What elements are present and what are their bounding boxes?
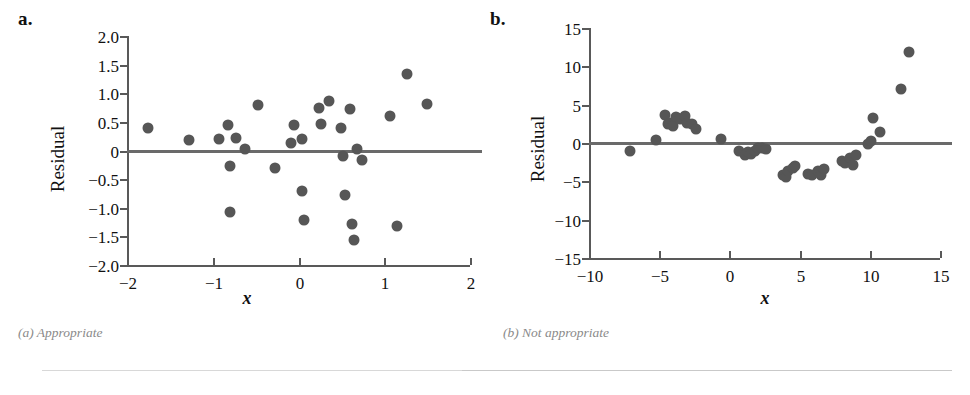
panel-a-x-tick [470,258,472,265]
panel-a-data-point [336,123,347,134]
panel-b-x-tick-label: −5 [630,268,690,285]
panel-b-y-tick [582,220,589,222]
panel-a-y-tick-label: 0.5 [71,115,119,132]
panel-a-y-tick [120,265,127,267]
panel-a: a. Residual 2.01.51.00.50−0.5−1.0−1.5−2.… [0,0,485,340]
panel-b: b. Residual 151050−5−10−15−10−5051015 x … [485,0,970,340]
panel-a-data-point [224,161,235,172]
panel-b-y-tick [582,28,589,30]
panel-a-data-point [223,120,234,131]
panel-a-x-tick [299,258,301,265]
panel-a-x-tick-label: −2 [98,275,158,292]
panel-a-data-point [392,220,403,231]
panel-a-data-point [346,219,357,230]
panel-a-data-point [142,122,153,133]
panel-a-x-axis-line [127,265,470,267]
panel-b-x-tick-label: 15 [911,268,970,285]
panel-a-data-point [323,96,334,107]
panel-a-x-tick-label: 1 [355,275,415,292]
panel-b-y-tick-label: −5 [533,174,581,191]
residual-plots-figure: a. Residual 2.01.51.00.50−0.5−1.0−1.5−2.… [0,0,970,395]
panel-a-data-point [315,119,326,130]
panel-a-x-tick-label: 0 [270,275,330,292]
panel-b-x-tick [659,251,661,258]
panel-a-x-axis-title: x [227,288,267,309]
panel-b-y-tick-label: 15 [533,21,581,38]
panel-a-zero-reference-line [127,150,482,153]
panel-b-data-point [624,145,635,156]
panel-b-data-point [904,46,915,57]
panel-b-x-tick-label: 10 [841,268,901,285]
panel-b-data-point [866,135,877,146]
panel-a-y-tick-label: −0.5 [71,172,119,189]
panel-a-y-tick [120,122,127,124]
panel-a-caption: (a) Appropriate [18,325,102,341]
panel-b-y-tick [582,143,589,145]
panel-b-caption: (b) Not appropriate [503,325,609,341]
panel-a-y-tick [120,65,127,67]
panel-a-data-point [213,133,224,144]
panel-a-x-tick [384,258,386,265]
panel-a-plot-area: 2.01.51.00.50−0.5−1.0−1.5−2.0−2−1012 [0,0,485,300]
panel-a-y-tick-label: −2.0 [71,258,119,275]
panel-b-x-tick [940,251,942,258]
panel-b-x-tick [729,251,731,258]
panel-a-x-tick [213,258,215,265]
panel-a-data-point [296,185,307,196]
panel-b-data-point [818,164,829,175]
panel-b-data-point [716,134,727,145]
footer-rule-left [42,370,462,371]
panel-b-x-tick-label: 0 [700,268,760,285]
panel-a-y-tick-label: 0 [71,144,119,161]
panel-b-y-tick-label: 0 [533,136,581,153]
panel-a-data-point [289,119,300,130]
panel-a-data-point [385,111,396,122]
panel-b-x-tick [589,251,591,258]
panel-a-data-point [224,207,235,218]
panel-b-x-axis-title: x [745,288,785,309]
panel-b-data-point [651,134,662,145]
panel-a-data-point [285,138,296,149]
panel-a-y-tick-label: −1.0 [71,201,119,218]
panel-a-data-point [298,214,309,225]
panel-a-y-tick-label: 1.0 [71,86,119,103]
panel-b-data-point [850,150,861,161]
panel-b-y-tick [582,105,589,107]
panel-a-data-point [296,133,307,144]
panel-a-y-tick-label: 2.0 [71,29,119,46]
panel-b-x-axis-line [589,258,940,260]
panel-a-y-tick [120,36,127,38]
panel-a-data-point [339,189,350,200]
panel-b-y-tick-label: 5 [533,98,581,115]
panel-b-data-point [760,144,771,155]
panel-b-data-point [895,84,906,95]
panel-a-y-tick [120,236,127,238]
panel-b-x-tick-label: 5 [771,268,831,285]
panel-b-zero-reference-line [589,142,952,145]
panel-b-y-tick-label: −15 [533,251,581,268]
panel-b-y-tick [582,66,589,68]
panel-a-y-tick [120,179,127,181]
panel-a-data-point [345,103,356,114]
panel-b-y-tick-label: 10 [533,59,581,76]
panel-a-data-point [240,143,251,154]
panel-b-data-point [790,161,801,172]
panel-b-x-tick-label: −10 [560,268,620,285]
panel-b-data-point [874,127,885,138]
panel-a-y-tick [120,208,127,210]
panel-a-y-tick-label: 1.5 [71,58,119,75]
panel-a-x-tick [127,258,129,265]
panel-b-y-tick-label: −10 [533,213,581,230]
panel-a-data-point [183,134,194,145]
panel-b-x-tick [800,251,802,258]
footer-rule-right [462,370,952,371]
panel-a-data-point [338,151,349,162]
panel-a-data-point [401,68,412,79]
panel-b-data-point [690,124,701,135]
panel-a-y-tick [120,151,127,153]
panel-b-y-tick [582,181,589,183]
panel-a-data-point [349,234,360,245]
panel-a-y-tick-label: −1.5 [71,229,119,246]
panel-a-data-point [357,154,368,165]
panel-a-data-point [230,132,241,143]
